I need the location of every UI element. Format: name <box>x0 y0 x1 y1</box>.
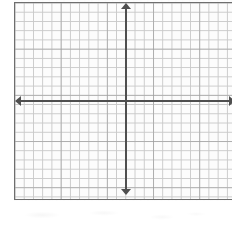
scan-artifacts <box>0 201 232 235</box>
coordinate-grid-panel[interactable] <box>14 2 232 200</box>
y-axis-arrow-down-icon <box>121 189 131 195</box>
x-axis-arrow-right-icon <box>229 96 232 106</box>
worksheet-canvas <box>0 0 232 235</box>
y-axis-line <box>125 9 127 189</box>
axes-layer <box>15 3 232 199</box>
left-margin-strip <box>0 0 14 201</box>
blank-answer-area <box>0 201 232 235</box>
y-axis-arrow-up-icon <box>121 3 131 9</box>
x-axis-arrow-left-icon <box>15 96 21 106</box>
